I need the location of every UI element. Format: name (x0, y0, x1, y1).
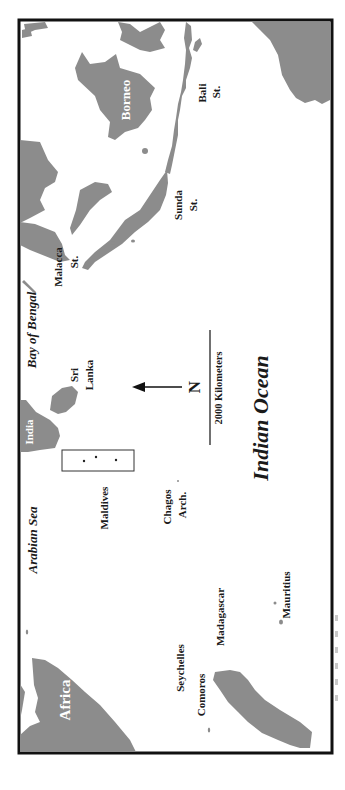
land-mauritius (279, 620, 283, 625)
label-india: India (23, 419, 35, 445)
label-seychelles: Seychelles (174, 643, 186, 691)
label-malacca: Malacca (52, 247, 64, 287)
land-islet-1 (142, 148, 148, 154)
label-mauritius: Mauritius (280, 571, 292, 619)
land-socotra (26, 630, 28, 635)
label-chagos: Chagos (161, 489, 173, 525)
label-bali-st: St. (210, 85, 222, 98)
land-chagos (177, 480, 179, 482)
label-madagascar: Madagascar (214, 588, 226, 646)
label-chagos-arch: Arch. (176, 492, 188, 519)
land-islet-2 (131, 240, 135, 243)
label-bay-of-bengal: Bay of Bengal (24, 291, 39, 369)
label-africa: Africa (57, 679, 73, 720)
label-lanka: Lanka (83, 359, 95, 390)
land-islet-3 (112, 241, 115, 245)
land-reunion (274, 602, 277, 605)
maldives-dot-2 (95, 456, 97, 458)
maldives-dot-3 (115, 459, 117, 461)
label-sunda: Sunda (172, 190, 184, 220)
label-sri: Sri (68, 368, 80, 382)
label-sunda-st: St. (187, 198, 199, 211)
indian-ocean-map: N 2000 Kilometers Borneo Bali St. Sunda … (0, 0, 345, 790)
label-maldives: Maldives (98, 486, 110, 529)
north-label: N (185, 380, 204, 393)
land-comoros (208, 728, 210, 733)
label-arabian-sea: Arabian Sea (25, 506, 40, 574)
label-comoros: Comoros (195, 673, 207, 716)
label-bali: Bali (196, 84, 208, 103)
faint-caption-marks (335, 615, 341, 765)
maldives-dot-1 (83, 460, 85, 462)
label-indian-ocean: Indian Ocean (248, 355, 273, 481)
label-borneo: Borneo (118, 80, 133, 120)
scale-bar-label: 2000 Kilometers (213, 351, 224, 424)
label-malacca-st: St. (68, 255, 80, 268)
